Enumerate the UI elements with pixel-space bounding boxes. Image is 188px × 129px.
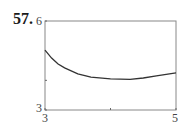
- plot-frame: [45, 21, 176, 110]
- data-curve: [45, 50, 176, 79]
- line-chart: [0, 0, 188, 129]
- axis-ticks: [45, 21, 176, 110]
